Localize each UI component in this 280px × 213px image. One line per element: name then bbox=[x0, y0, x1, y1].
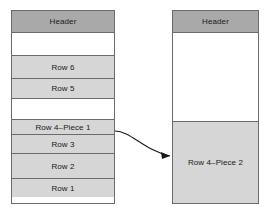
left-block-cell-label-7: Row 2 bbox=[51, 162, 74, 171]
right-block-row-piece-2: Row 4–Piece 2 bbox=[173, 122, 258, 203]
left-block-row-piece-2: Row 6 bbox=[12, 56, 114, 79]
left-block-cell-label-5: Row 4–Piece 1 bbox=[35, 123, 90, 132]
left-block-cell-label-8: Row 1 bbox=[51, 184, 74, 193]
left-block-free-space-1 bbox=[12, 33, 114, 56]
right-block-cell-label-0: Header bbox=[202, 17, 229, 26]
left-block-cell-label-0: Header bbox=[50, 17, 77, 26]
right-block-cell-label-2: Row 4–Piece 2 bbox=[188, 158, 243, 167]
left-block-row-piece-3: Row 5 bbox=[12, 79, 114, 99]
right-block-block-header-0: Header bbox=[173, 11, 258, 33]
right-block-free-space-1 bbox=[173, 33, 258, 122]
left-block-row-piece-8: Row 1 bbox=[12, 179, 114, 197]
left-block-row-piece-6: Row 3 bbox=[12, 135, 114, 154]
left-block-cell-label-3: Row 5 bbox=[51, 84, 74, 93]
row-chain-pointer-arrowhead bbox=[161, 152, 170, 159]
row-chaining-diagram: HeaderRow 6Row 5Row 4–Piece 1Row 3Row 2R… bbox=[0, 0, 280, 213]
left-block-cell-label-6: Row 3 bbox=[51, 140, 74, 149]
left-block-row-piece-7: Row 2 bbox=[12, 154, 114, 179]
left-block-row-piece-5: Row 4–Piece 1 bbox=[12, 120, 114, 135]
left-block-free-space-4 bbox=[12, 99, 114, 120]
left-block-block-header-0: Header bbox=[12, 11, 114, 33]
right-data-block: HeaderRow 4–Piece 2 bbox=[172, 10, 259, 204]
row-chain-pointer-line bbox=[115, 131, 170, 156]
left-block-cell-label-2: Row 6 bbox=[51, 63, 74, 72]
left-data-block: HeaderRow 6Row 5Row 4–Piece 1Row 3Row 2R… bbox=[11, 10, 115, 204]
